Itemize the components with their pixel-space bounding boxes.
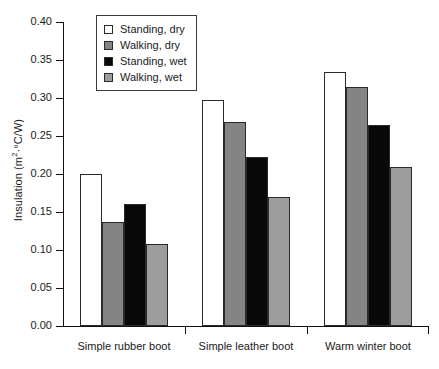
y-axis-tick: 0.00 — [56, 326, 63, 327]
legend-swatch-icon — [104, 25, 113, 34]
y-axis-tick-label: 0.40 — [31, 15, 52, 28]
legend-item-label: Standing, wet — [120, 55, 187, 68]
x-axis-group-label: Simple rubber boot — [78, 340, 171, 352]
bar-chart: Insulation (m2·°C/W) 0.000.050.100.150.2… — [0, 0, 439, 369]
legend-swatch-icon — [104, 41, 113, 50]
y-axis-tick: 0.20 — [56, 174, 63, 175]
chart-legend: Standing, dryWalking, dryStanding, wetWa… — [96, 15, 197, 91]
legend-item: Standing, wet — [104, 53, 187, 69]
bar — [102, 222, 124, 326]
legend-item-label: Walking, wet — [120, 71, 182, 84]
x-axis-group-label: Simple leather boot — [199, 340, 294, 352]
x-axis-tick — [428, 327, 429, 334]
legend-item-label: Walking, dry — [120, 39, 180, 52]
bar — [368, 125, 390, 326]
x-axis-tick — [307, 327, 308, 334]
legend-item: Standing, dry — [104, 21, 187, 37]
y-axis-tick-label: 0.05 — [31, 281, 52, 294]
y-axis-tick: 0.40 — [56, 22, 63, 23]
y-axis-title: Insulation (m2·°C/W) — [12, 90, 24, 250]
y-axis-tick-label: 0.25 — [31, 129, 52, 142]
bar — [224, 122, 246, 326]
legend-item: Walking, wet — [104, 69, 187, 85]
bar — [80, 174, 102, 326]
y-axis-line — [63, 22, 64, 327]
y-axis-tick-label: 0.30 — [31, 91, 52, 104]
y-axis-tick: 0.15 — [56, 212, 63, 213]
y-axis-title-exponent: 2 — [10, 153, 19, 157]
y-axis-tick-label: 0.10 — [31, 243, 52, 256]
bar — [390, 167, 412, 326]
x-axis-group-label: Warm winter boot — [325, 340, 411, 352]
bar — [124, 204, 146, 326]
y-axis-tick-label: 0.20 — [31, 167, 52, 180]
y-axis-tick: 0.05 — [56, 288, 63, 289]
legend-item-label: Standing, dry — [120, 23, 185, 36]
bar — [202, 100, 224, 326]
y-axis-tick-label: 0.35 — [31, 53, 52, 66]
y-axis-tick-label: 0.15 — [31, 205, 52, 218]
x-axis-tick — [185, 327, 186, 334]
legend-swatch-icon — [104, 57, 113, 66]
bar — [346, 87, 368, 326]
bar — [324, 72, 346, 326]
y-axis-tick: 0.25 — [56, 136, 63, 137]
legend-item: Walking, dry — [104, 37, 187, 53]
y-axis-tick: 0.35 — [56, 60, 63, 61]
bar — [146, 244, 168, 326]
bar — [246, 157, 268, 326]
y-axis-tick-label: 0.00 — [31, 319, 52, 332]
y-axis-tick: 0.10 — [56, 250, 63, 251]
y-axis-tick: 0.30 — [56, 98, 63, 99]
bar — [268, 197, 290, 326]
legend-swatch-icon — [104, 73, 113, 82]
x-axis-line — [63, 326, 429, 327]
